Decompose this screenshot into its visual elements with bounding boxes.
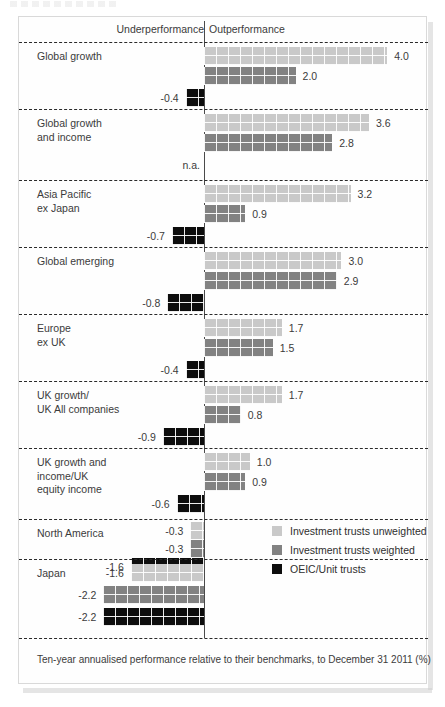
bar-value-label: 1.5 — [280, 342, 295, 354]
bar-value-label: 4.0 — [394, 50, 409, 62]
bar-group: 0.8 — [19, 406, 428, 424]
bar-group: 3.2 — [19, 185, 428, 203]
bar-positive — [204, 47, 387, 65]
bar-group: 2.0 — [19, 67, 428, 85]
bar-group: -0.7 — [19, 227, 428, 245]
bar-positive — [204, 272, 337, 290]
bar-value-label: -0.3 — [165, 543, 183, 555]
bar-value-label: 1.7 — [289, 389, 304, 401]
bar-positive — [204, 386, 282, 404]
bar-negative — [103, 586, 204, 604]
bar-group: -0.9 — [19, 428, 428, 446]
legend-item[interactable]: Investment trusts weighted — [272, 544, 422, 556]
card-shadow-bottom — [23, 688, 432, 693]
chart-category-row: Global growth4.02.0-0.4 — [19, 42, 428, 109]
bar-negative — [190, 522, 204, 540]
chart-legend: Investment trusts unweightedInvestment t… — [272, 525, 422, 582]
underperformance-region-label: Underperformance — [116, 23, 204, 35]
bar-value-label: -0.4 — [161, 364, 179, 376]
bar-value-label: 0.9 — [252, 476, 267, 488]
bar-group: 1.0 — [19, 453, 428, 471]
bar-group: 0.9 — [19, 205, 428, 223]
bar-group: -0.6 — [19, 495, 428, 513]
bar-positive — [204, 67, 296, 85]
bar-value-label: 3.2 — [358, 188, 373, 200]
chart-header: Underperformance Outperformance — [19, 17, 428, 42]
bar-negative — [172, 227, 204, 245]
bar-group: -0.4 — [19, 89, 428, 107]
page-top-artifact — [10, 1, 120, 7]
bar-value-label: -2.2 — [78, 589, 96, 601]
bar-negative — [186, 89, 204, 107]
bar-positive — [204, 114, 369, 132]
bar-value-label: -0.9 — [138, 431, 156, 443]
bar-value-label: 2.0 — [303, 70, 318, 82]
chart-category-row: Global growth and income3.62.8n.a. — [19, 109, 428, 180]
bar-positive — [204, 453, 250, 471]
bar-value-label: -0.7 — [147, 230, 165, 242]
bar-positive — [204, 473, 245, 491]
bar-value-label: 0.8 — [248, 409, 263, 421]
bar-group: -0.4 — [19, 361, 428, 379]
chart-category-row: Asia Pacific ex Japan3.20.9-0.7 — [19, 180, 428, 247]
bar-positive — [204, 319, 282, 337]
bar-group: 2.9 — [19, 272, 428, 290]
bar-value-label: 1.0 — [257, 456, 272, 468]
bar-negative — [177, 495, 205, 513]
bar-positive — [204, 185, 351, 203]
square-swatch-light-icon — [272, 526, 282, 536]
bar-value-label: 3.0 — [348, 255, 363, 267]
bar-group: 3.0 — [19, 252, 428, 270]
outperformance-region-label: Outperformance — [209, 23, 285, 35]
bar-value-label: -1.6 — [106, 567, 124, 579]
chart-footer: Ten-year annualised performance relative… — [19, 638, 428, 684]
bar-negative — [186, 361, 204, 379]
bar-value-label: 3.6 — [376, 117, 391, 129]
bar-positive — [204, 406, 241, 424]
bar-group: 0.9 — [19, 473, 428, 491]
bar-value-label: -2.2 — [78, 611, 96, 623]
legend-item[interactable]: OEIC/Unit trusts — [272, 563, 422, 575]
bar-negative — [167, 294, 204, 312]
bar-group: -2.2 — [19, 608, 428, 626]
square-swatch-dark-icon — [272, 564, 282, 574]
bar-value-label: 1.7 — [289, 322, 304, 334]
bar-group: 2.8 — [19, 134, 428, 152]
bar-positive — [204, 205, 245, 223]
bar-group: -0.8 — [19, 294, 428, 312]
chart-category-row: UK growth and income/UK equity income1.0… — [19, 448, 428, 519]
bar-group: 1.7 — [19, 319, 428, 337]
bar-group: 1.7 — [19, 386, 428, 404]
legend-item-label: Investment trusts unweighted — [290, 525, 427, 537]
chart-category-row: Europe ex UK1.71.5-0.4 — [19, 314, 428, 381]
bar-value-label-na: n.a. — [182, 159, 200, 171]
bar-group: n.a. — [19, 156, 428, 174]
bar-value-label: -0.8 — [142, 297, 160, 309]
bar-value-label: 2.9 — [344, 275, 359, 287]
bar-value-label: 2.8 — [339, 137, 354, 149]
bar-value-label: -0.6 — [151, 498, 169, 510]
bar-negative — [131, 564, 204, 582]
chart-card: Underperformance Outperformance Global g… — [18, 16, 427, 684]
bar-negative — [190, 540, 204, 558]
legend-item-label: OEIC/Unit trusts — [290, 563, 366, 575]
bar-group: 4.0 — [19, 47, 428, 65]
chart-category-row: Global emerging3.02.9-0.8 — [19, 247, 428, 314]
card-shadow-right — [428, 22, 433, 690]
bar-group: 1.5 — [19, 339, 428, 357]
bar-positive — [204, 134, 332, 152]
legend-item[interactable]: Investment trusts unweighted — [272, 525, 422, 537]
chart-category-row: UK growth/ UK All companies1.70.8-0.9 — [19, 381, 428, 448]
bar-group: -2.2 — [19, 586, 428, 604]
bar-negative — [103, 608, 204, 626]
bar-value-label: 0.9 — [252, 208, 267, 220]
legend-item-label: Investment trusts weighted — [290, 544, 415, 556]
bar-positive — [204, 252, 341, 270]
footer-caption: Ten-year annualised performance relative… — [37, 654, 431, 665]
bar-negative — [163, 428, 204, 446]
bar-group: 3.6 — [19, 114, 428, 132]
bar-positive — [204, 339, 273, 357]
square-swatch-mid-icon — [272, 545, 282, 555]
bar-value-label: -0.4 — [161, 92, 179, 104]
bar-value-label: -0.3 — [165, 525, 183, 537]
